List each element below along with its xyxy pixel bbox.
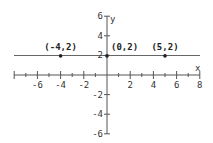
y-tick-label: 2 <box>98 50 103 60</box>
x-axis-label: x <box>195 63 201 73</box>
x-tick-label: 2 <box>127 80 132 90</box>
x-tick-label: 6 <box>174 80 179 90</box>
data-point-label: (-4,2) <box>44 42 77 52</box>
data-point <box>59 54 63 58</box>
x-tick-label: 4 <box>151 80 156 90</box>
data-point-label: (5,2) <box>151 42 178 52</box>
data-point-label: (0,2) <box>111 42 138 52</box>
y-tick-label: -4 <box>92 109 103 119</box>
x-axis-ticks: -6-4-22468 <box>14 71 202 90</box>
coordinate-plane: -6-4-22468 642-2-4-6 (-4,2)(0,2)(5,2) x … <box>0 0 213 143</box>
y-tick-label: 6 <box>98 11 103 21</box>
y-tick-label: -2 <box>92 90 103 100</box>
data-point <box>163 54 167 58</box>
x-tick-label: 8 <box>197 80 202 90</box>
x-tick-label: -2 <box>78 80 89 90</box>
y-tick-label: -6 <box>92 129 103 139</box>
y-tick-label: 4 <box>98 31 103 41</box>
x-tick-label: -6 <box>32 80 43 90</box>
data-point <box>105 54 109 58</box>
y-axis-label: y <box>110 14 116 24</box>
x-tick-label: -4 <box>55 80 66 90</box>
